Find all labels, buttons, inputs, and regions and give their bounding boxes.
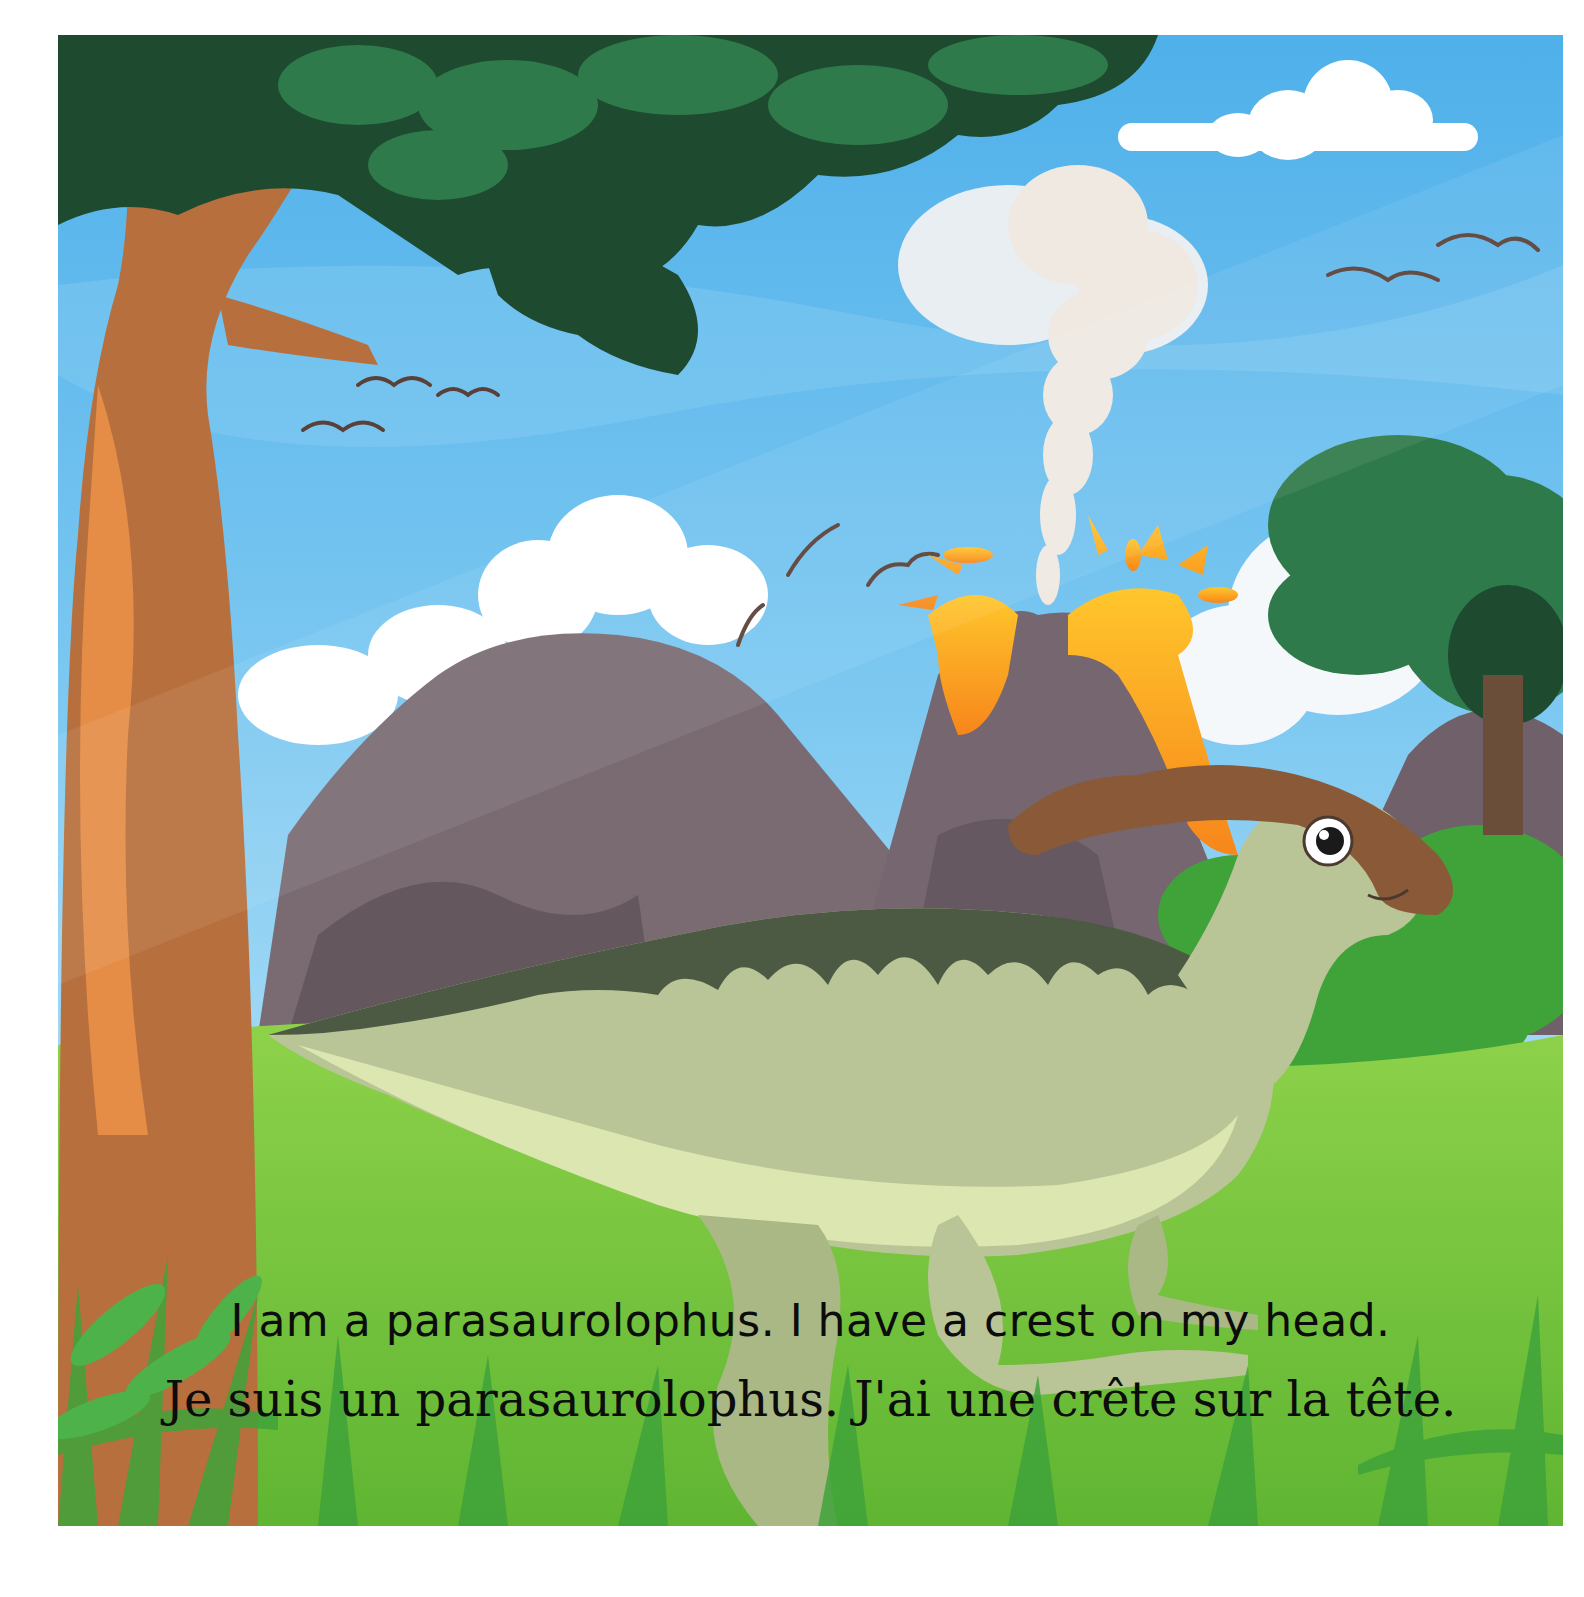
caption-french: Je suis un parasaurolophus. J'ai une crê…: [58, 1371, 1563, 1427]
caption-english: I am a parasaurolophus. I have a crest o…: [58, 1295, 1563, 1346]
picture-book-page: I am a parasaurolophus. I have a crest o…: [58, 35, 1563, 1526]
